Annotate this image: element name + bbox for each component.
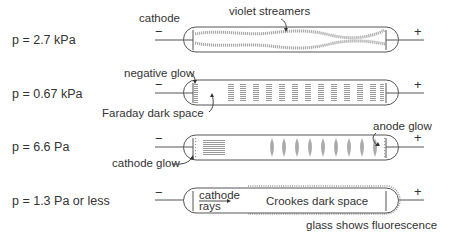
violet-streamer <box>195 30 385 38</box>
pressure-label: p = 6.6 Pa <box>12 140 69 154</box>
negative-glow <box>194 83 198 103</box>
violet-streamers-label: violet streamers <box>229 5 310 17</box>
negative-glow-block <box>203 139 225 155</box>
anode-sign: + <box>414 24 422 39</box>
cathode-sign: − <box>155 24 163 39</box>
cathode-sign: − <box>155 131 163 146</box>
cathode-glow-label: cathode glow <box>112 157 180 169</box>
row-4: p = 1.3 Pa or less − + cathode rays Croo… <box>12 184 437 231</box>
cathode-sign: − <box>155 77 163 92</box>
row-3: p = 6.6 Pa cathode glow anode glow − + <box>12 120 433 169</box>
anode-glow <box>383 138 386 158</box>
pressure-label: p = 2.7 kPa <box>12 33 76 47</box>
discharge-tube-diagram: p = 2.7 kPa cathode violet streamers − +… <box>0 0 451 240</box>
anode-sign: + <box>414 77 422 92</box>
crookes-dark-space-label: Crookes dark space <box>266 195 368 207</box>
glass-fluorescence-label: glass shows fluorescence <box>306 219 437 231</box>
tube-outline <box>183 80 398 105</box>
striations <box>228 84 384 102</box>
cathode-glow <box>194 138 197 158</box>
faraday-dark-space-label: Faraday dark space <box>102 107 204 119</box>
pressure-label: p = 1.3 Pa or less <box>12 194 110 208</box>
cathode-sign: − <box>155 185 163 200</box>
anode-sign: + <box>414 130 422 145</box>
pressure-label: p = 0.67 kPa <box>12 87 83 101</box>
violet-streamer <box>195 41 385 48</box>
row-1: p = 2.7 kPa cathode violet streamers − + <box>12 5 424 52</box>
cathode-rays-label-2: rays <box>199 200 221 212</box>
anode-glow-label: anode glow <box>373 120 433 132</box>
anode-sign: + <box>414 184 422 199</box>
positive-column <box>270 138 377 157</box>
cathode-label: cathode <box>139 12 180 24</box>
row-2: p = 0.67 kPa negative glow Faraday dark … <box>12 67 424 119</box>
